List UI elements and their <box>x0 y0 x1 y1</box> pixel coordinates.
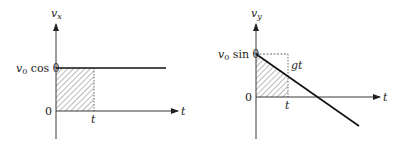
right-graph-vy: vy t 0 v0 sin θ t gt <box>218 7 388 139</box>
left-level-label: v0 cos θ <box>16 62 60 76</box>
right-y-axis-label: vy <box>251 7 262 21</box>
left-x-axis-label: t <box>181 105 186 118</box>
velocity-time-diagrams: vx t 0 v0 cos θ t vy t 0 v0 sin θ t gt <box>0 0 402 150</box>
left-origin-label: 0 <box>45 105 52 118</box>
right-x-axis-label: t <box>383 91 388 104</box>
left-graph-vx: vx t 0 v0 cos θ t <box>16 7 186 139</box>
right-hatched-area <box>256 54 288 97</box>
right-t-marker-label: t <box>285 99 290 112</box>
right-level-label: v0 sin θ <box>218 48 260 62</box>
left-y-axis-label: vx <box>51 7 62 21</box>
right-gt-label: gt <box>291 59 303 72</box>
left-t-marker-label: t <box>91 113 96 126</box>
right-origin-label: 0 <box>245 91 252 104</box>
left-hatched-area <box>56 68 94 111</box>
